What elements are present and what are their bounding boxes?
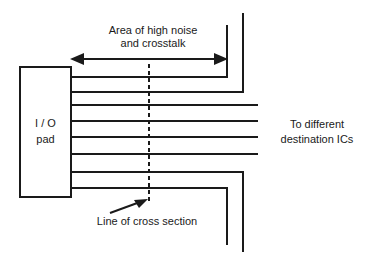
arrowhead-left-icon bbox=[70, 53, 84, 65]
noise-area-label-2: and crosstalk bbox=[98, 37, 208, 50]
trace-7 bbox=[71, 172, 243, 252]
io-pad-label-2: pad bbox=[20, 133, 71, 146]
destination-label-2: destination ICs bbox=[270, 133, 364, 146]
io-pad-box bbox=[20, 67, 71, 197]
cross-section-pointer bbox=[110, 202, 140, 213]
noise-area-label-1: Area of high noise bbox=[98, 24, 208, 37]
cross-section-label: Line of cross section bbox=[92, 215, 202, 228]
io-pad-label-1: I / O bbox=[20, 117, 71, 130]
destination-label-1: To different bbox=[270, 118, 364, 131]
arrowhead-right-icon bbox=[214, 53, 228, 65]
